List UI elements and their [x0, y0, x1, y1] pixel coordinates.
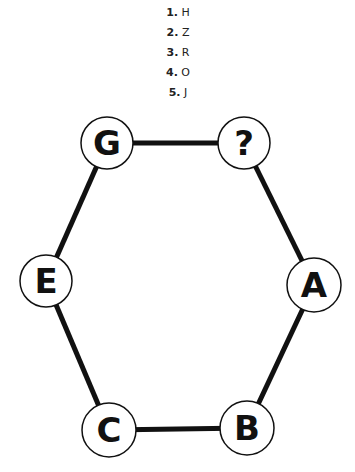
hexagon-diagram: G ? A B C E [0, 0, 355, 472]
node-c: C [82, 403, 136, 457]
node-g: G [81, 117, 133, 169]
node-a: A [287, 258, 341, 312]
node-b: B [220, 401, 274, 455]
question-mark-label: ? [234, 123, 254, 163]
node-label: C [97, 410, 122, 450]
node-e: E [20, 255, 72, 307]
node-label: E [34, 261, 57, 301]
node-unknown: ? [218, 117, 270, 169]
node-label: G [93, 123, 121, 163]
node-label: B [234, 408, 260, 448]
node-label: A [301, 265, 328, 305]
edges [46, 143, 314, 430]
